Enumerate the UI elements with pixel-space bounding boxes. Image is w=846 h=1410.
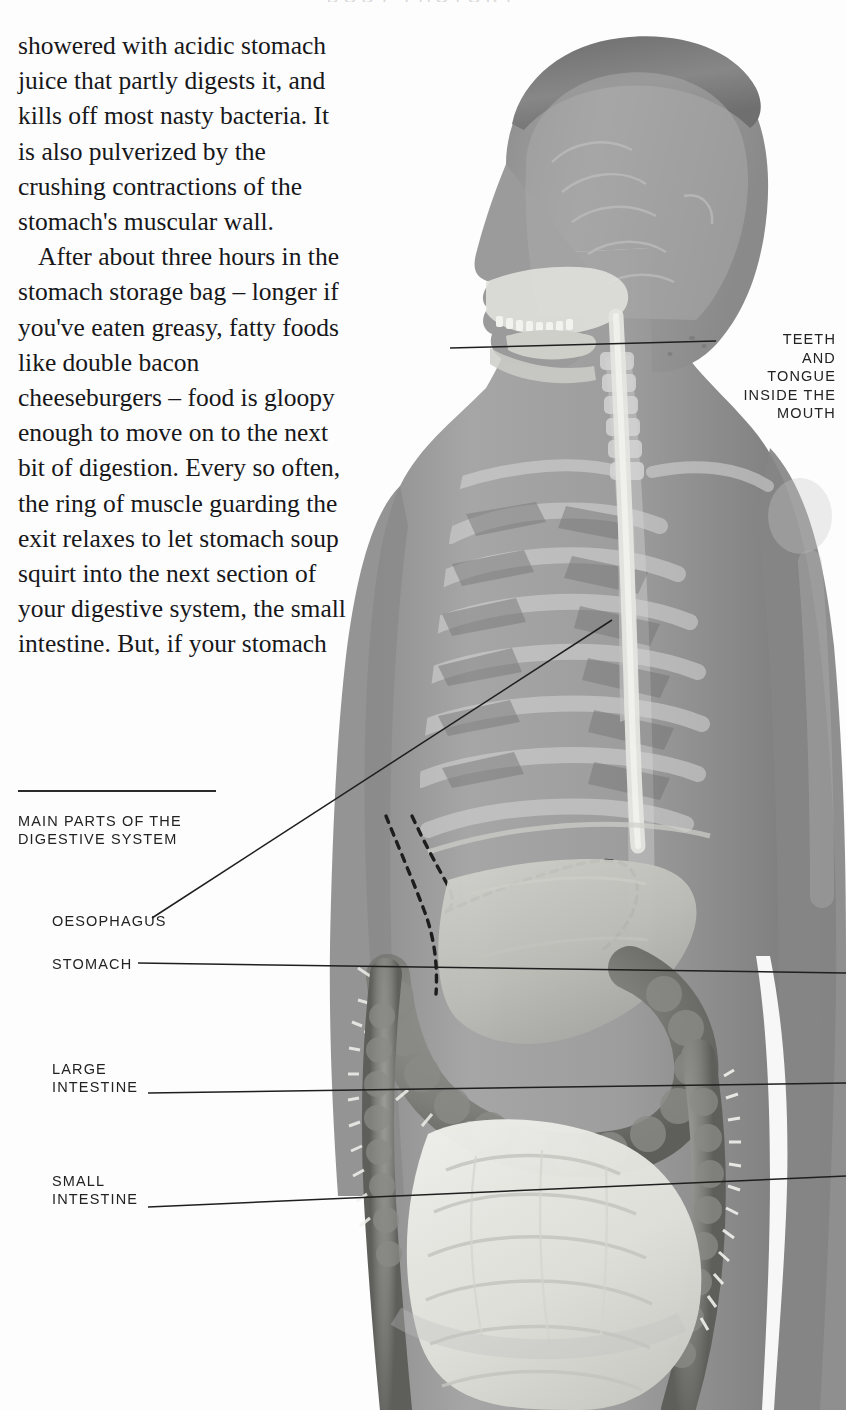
running-head: BODY FACTORY bbox=[0, 0, 846, 2]
caption-oesophagus: OESOPHAGUS bbox=[52, 912, 167, 930]
page-root: BODY FACTORY bbox=[0, 0, 846, 1410]
paragraph-2: After about three hours in the stomach s… bbox=[18, 239, 348, 661]
caption-teeth-and-tongue: TEETH AND TONGUE INSIDE THE MOUTH bbox=[743, 330, 836, 423]
caption-stomach: STOMACH bbox=[52, 955, 132, 973]
body-copy: showered with acidic stomach juice that … bbox=[18, 28, 348, 662]
caption-main-parts: MAIN PARTS OF THE DIGESTIVE SYSTEM bbox=[18, 812, 182, 848]
caption-large-intestine: LARGE INTESTINE bbox=[52, 1060, 138, 1096]
caption-small-intestine: SMALL INTESTINE bbox=[52, 1172, 138, 1208]
paragraph-1: showered with acidic stomach juice that … bbox=[18, 28, 348, 239]
anatomy-illustration bbox=[300, 16, 846, 1410]
caption-divider-rule bbox=[18, 790, 216, 792]
